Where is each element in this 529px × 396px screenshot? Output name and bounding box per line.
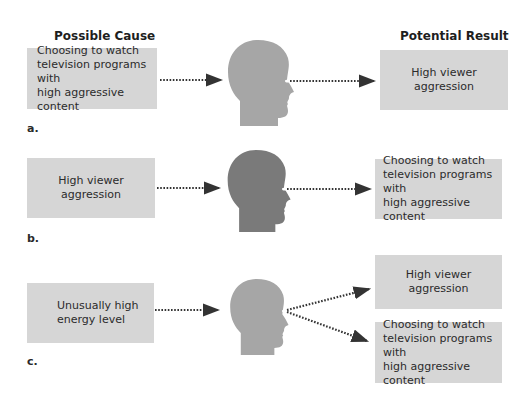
head-icon-a (228, 40, 294, 126)
diagram-graphics (0, 0, 529, 396)
head-icon-c (230, 279, 288, 355)
arrow-c-out-top (287, 289, 369, 310)
head-icon-b (228, 150, 291, 232)
arrow-c-out-bottom (287, 312, 367, 341)
